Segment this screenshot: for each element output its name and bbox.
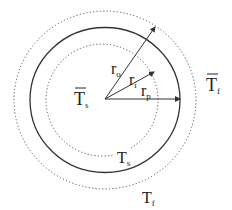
- concentric-circles-diagram: ro ri rp Ts Tf Ts Tf: [0, 0, 232, 210]
- r-o-label: ro: [111, 60, 121, 79]
- solid-boundary-circle: [30, 28, 180, 173]
- inner-dotted-circle: [46, 44, 158, 156]
- r-p-label: rp: [141, 82, 151, 101]
- tf-label: Tf: [142, 189, 155, 208]
- ts-bar-label: Ts: [74, 88, 89, 110]
- ts-label: Ts: [117, 149, 131, 168]
- r-i-label: ri: [129, 71, 137, 90]
- svg-text:Ts: Ts: [74, 89, 89, 110]
- tf-bar-label: Tf: [206, 74, 220, 96]
- svg-text:Tf: Tf: [206, 75, 220, 96]
- outer-dotted-circle: [14, 11, 196, 189]
